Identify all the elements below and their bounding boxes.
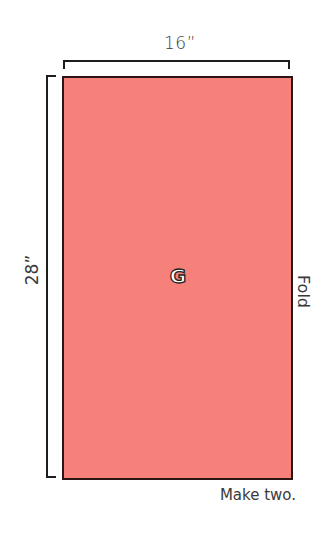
height-dimension-label: 28” [22, 240, 42, 300]
cutting-instructions: Make two. [176, 486, 296, 504]
width-dimension-label: 16” [150, 33, 210, 53]
width-dimension-bracket [63, 60, 290, 69]
fold-edge-label: Fold [294, 269, 313, 315]
pattern-piece-letter: G [166, 265, 190, 287]
height-dimension-bracket [46, 75, 56, 478]
